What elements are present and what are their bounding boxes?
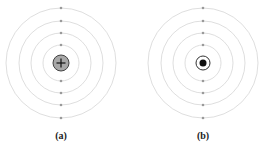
electron-dot — [202, 117, 205, 120]
electron-dot — [202, 104, 205, 107]
electron-dot — [60, 117, 63, 120]
atom-panel-a — [6, 7, 116, 120]
electron-dot — [202, 92, 205, 95]
nucleus-dot-icon — [200, 60, 207, 67]
electron-dot — [202, 44, 205, 47]
electron-dot — [60, 44, 63, 47]
electron-dot — [202, 7, 205, 10]
electron-dot — [202, 32, 205, 35]
electron-dot — [202, 20, 205, 23]
electron-dot — [60, 7, 63, 10]
atom-diagram — [0, 0, 261, 149]
electron-dot — [60, 32, 63, 35]
electron-dot — [202, 80, 205, 83]
electron-dot — [60, 104, 63, 107]
electron-dot — [60, 20, 63, 23]
atom-panel-b — [148, 7, 258, 120]
panel-label-b: (b) — [197, 130, 209, 141]
electron-dot — [60, 80, 63, 83]
panel-label-a: (a) — [55, 130, 67, 141]
electron-dot — [60, 92, 63, 95]
